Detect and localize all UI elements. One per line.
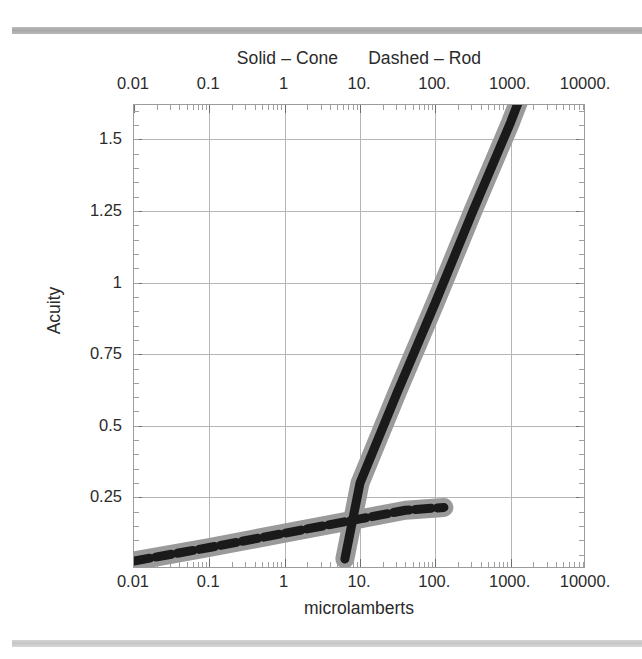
plot-area	[133, 104, 585, 568]
curve-halo-cone	[345, 105, 526, 559]
x-tick-label-top-2: 1	[279, 74, 288, 93]
y-tick-label-4: 1.25	[90, 200, 122, 219]
x-tick-label-bottom-1: 0.1	[197, 572, 220, 591]
legend-entry-solid-cone: Solid – Cone	[237, 48, 338, 69]
x-tick-label-bottom-0: 0.01	[117, 572, 149, 591]
x-tick-label-top-6: 10000.	[560, 74, 610, 93]
x-tick-label-bottom-5: 1000.	[489, 572, 530, 591]
x-tick-label-bottom-2: 1	[279, 572, 288, 591]
x-tick-label-top-3: 10.	[348, 74, 371, 93]
y-axis-title: Acuity	[44, 251, 65, 371]
data-curves	[134, 105, 585, 568]
figure-page: Solid – Cone Dashed – Rod microlamberts …	[0, 0, 642, 659]
x-tick-label-bottom-3: 10.	[348, 572, 371, 591]
x-tick-label-top-5: 1000.	[489, 74, 530, 93]
legend-entry-dashed-rod: Dashed – Rod	[368, 48, 481, 69]
curve-rod	[134, 507, 444, 561]
y-tick-label-1: 0.5	[99, 415, 122, 434]
x-tick-label-top-1: 0.1	[197, 74, 220, 93]
y-tick-label-2: 0.75	[90, 344, 122, 363]
chart-legend-caption: Solid – Cone Dashed – Rod	[133, 48, 585, 69]
x-axis-title: microlamberts	[133, 598, 585, 619]
y-tick-label-3: 1	[113, 272, 122, 291]
x-tick-label-bottom-4: 100.	[418, 572, 450, 591]
x-tick-label-top-4: 100.	[418, 74, 450, 93]
x-tick-label-top-0: 0.01	[117, 74, 149, 93]
y-tick-label-0: 0.25	[90, 487, 122, 506]
x-tick-label-bottom-6: 10000.	[560, 572, 610, 591]
y-tick-label-5: 1.5	[99, 129, 122, 148]
acuity-vs-luminance-chart: Solid – Cone Dashed – Rod microlamberts …	[0, 0, 642, 659]
